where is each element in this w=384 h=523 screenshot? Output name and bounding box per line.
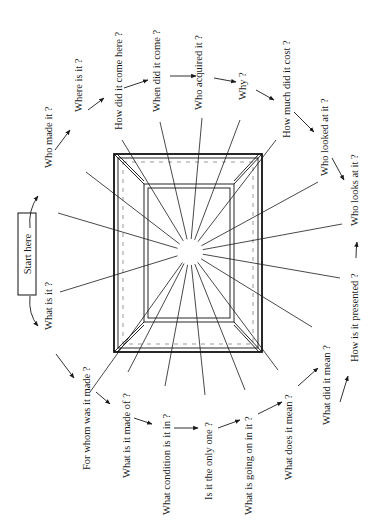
question-how-much-did-it-cost: How much did it cost ? — [281, 40, 292, 138]
arrow-12 — [298, 368, 318, 386]
arrow-14 — [218, 420, 240, 428]
question-what-is-it-made-of: What is it made of ? — [121, 393, 132, 478]
arrow-8 — [294, 112, 314, 132]
arrow-1 — [30, 296, 38, 326]
arrow-3 — [88, 98, 104, 110]
question-where-is-it: Where is it ? — [73, 58, 84, 112]
question-what-did-it-mean: What did it mean ? — [321, 345, 332, 425]
arrow-6 — [214, 78, 236, 82]
question-what-condition-is-it-in: What condition is it in ? — [161, 413, 172, 515]
start-here-label: Start here — [22, 233, 33, 274]
question-who-acquired-it: Who acquired it ? — [193, 35, 204, 110]
arrow-13 — [258, 402, 282, 414]
arrow-10 — [356, 242, 357, 258]
arrow-4 — [124, 80, 148, 88]
question-who-looks-at-it: Who looks at it ? — [349, 154, 360, 226]
diagram-canvas: Start here What is it ?Who made it ?Wher… — [0, 0, 384, 523]
question-is-it-the-only-one: Is it the only one ? — [203, 422, 214, 500]
center-starburst — [178, 240, 202, 264]
arrow-11 — [340, 376, 348, 402]
question-who-made-it: Who made it ? — [43, 106, 54, 168]
question-how-is-it-presented: How is it presented ? — [349, 273, 360, 362]
arrow-2 — [55, 130, 70, 150]
arrow-9 — [332, 158, 344, 180]
interrogation-diagram: Start here What is it ?Who made it ?Wher… — [0, 0, 384, 523]
question-what-does-it-mean: What does it mean ? — [283, 394, 294, 480]
question-when-did-it-come: When did it come ? — [151, 29, 162, 112]
question-who-looked-at-it: Who looked at it ? — [319, 98, 330, 176]
arrow-18 — [56, 354, 74, 378]
question-why: Why ? — [237, 72, 248, 100]
arrow-17 — [96, 392, 110, 404]
question-what-is-going-on-in-it: What is going on in it ? — [243, 416, 254, 515]
question-for-whom-was-it-made: For whom was it made ? — [81, 366, 92, 470]
question-how-did-it-come-here: How did it come here ? — [113, 31, 124, 130]
question-what-is-it: What is it ? — [43, 282, 54, 330]
arrow-16 — [134, 418, 152, 424]
start-here-box: Start here — [18, 213, 36, 295]
arrow-7 — [256, 90, 274, 100]
